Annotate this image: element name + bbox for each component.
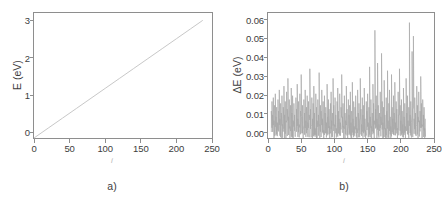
panel-b-xtickmark [301, 139, 302, 143]
panel-b-xtick-50: 50 [296, 143, 306, 154]
panel-a-ytick-3: 3 [14, 15, 30, 26]
panel-a-x-axis-title: i [104, 156, 120, 165]
panel-a-xtick-50: 50 [64, 143, 74, 154]
panel-b-caption: b) [329, 180, 359, 192]
panel-a-xtickmark [140, 139, 141, 143]
panel-b-ytickmark [264, 19, 268, 20]
panel-b-xtickmark [334, 139, 335, 143]
panel-a-xtickmark [34, 139, 35, 143]
panel-a-xtickmark [105, 139, 106, 143]
panel-a-xtick-100: 100 [97, 143, 113, 154]
panel-b-xtick-250: 250 [426, 143, 442, 154]
panel-b-xtick-0: 0 [265, 143, 270, 154]
panel-a-xtick-150: 150 [133, 143, 149, 154]
panel-b-xtick-100: 100 [327, 143, 343, 154]
panel-a-xtickmark [69, 139, 70, 143]
panel-b-ytickmark [264, 57, 268, 58]
figure-container: 3 2 1 0 0 50 100 150 200 250 E (eV) i a)… [0, 0, 444, 203]
panel-b-xtickmark [434, 139, 435, 143]
panel-b-xtick-200: 200 [393, 143, 409, 154]
panel-a-data-line [34, 20, 203, 138]
panel-b-y-axis-title: ΔE (eV) [231, 35, 243, 115]
panel-a-ytickmark [30, 95, 34, 96]
panel-a-ytick-0: 0 [14, 127, 30, 138]
panel-a-xtickmark [212, 139, 213, 143]
panel-b-ytick-000: 0.00 [234, 127, 264, 138]
panel-a-y-axis-title: E (eV) [11, 45, 23, 105]
panel-a-xtickmark [176, 139, 177, 143]
panel-b-xtickmark [400, 139, 401, 143]
panel-a-xtick-200: 200 [169, 143, 185, 154]
panel-b-data-spikes [271, 23, 425, 138]
panel-b-ytickmark [264, 38, 268, 39]
panel-b-ytickmark [264, 76, 268, 77]
panel-a-caption: a) [97, 180, 127, 192]
panel-b: 0.06 0.05 0.04 0.03 0.02 0.01 0.00 0 50 … [222, 0, 444, 203]
panel-b-xtickmark [268, 139, 269, 143]
panel-b-x-axis-title: i [336, 156, 352, 165]
panel-b-plot-area [222, 0, 444, 203]
panel-b-ytickmark [264, 132, 268, 133]
panel-b-ytick-006: 0.06 [234, 14, 264, 25]
panel-a-ytickmark [30, 57, 34, 58]
panel-a-xtick-250: 250 [204, 143, 220, 154]
panel-b-ytickmark [264, 113, 268, 114]
panel-a: 3 2 1 0 0 50 100 150 200 250 E (eV) i a) [0, 0, 222, 203]
panel-a-xtick-0: 0 [31, 143, 36, 154]
panel-a-ytickmark [30, 132, 34, 133]
panel-b-ytickmark [264, 95, 268, 96]
panel-a-plot-area [0, 0, 222, 203]
panel-b-xtickmark [367, 139, 368, 143]
panel-b-xtick-150: 150 [360, 143, 376, 154]
panel-a-ytickmark [30, 20, 34, 21]
